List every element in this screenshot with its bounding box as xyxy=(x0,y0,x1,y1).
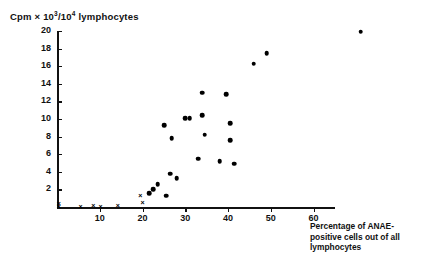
x-axis-tick xyxy=(228,207,229,212)
y-axis-tick-label: 4 xyxy=(0,166,51,176)
data-point-cross xyxy=(90,203,96,209)
y-axis-tick xyxy=(57,172,62,173)
y-axis-tick xyxy=(57,101,62,102)
data-point xyxy=(169,136,174,141)
y-axis-tick xyxy=(57,31,62,32)
y-axis-tick-label: 20 xyxy=(0,25,51,35)
y-axis-title-prefix: Cpm × 10 xyxy=(10,11,54,22)
data-point-cross xyxy=(78,204,84,210)
data-point xyxy=(217,159,222,164)
y-axis-tick xyxy=(57,49,62,50)
y-axis-tick xyxy=(57,84,62,85)
data-point xyxy=(228,138,233,143)
data-point xyxy=(151,187,156,192)
x-axis-tick-label: 30 xyxy=(165,213,205,223)
scatter-chart-figure: Cpm × 103/104 lymphocytes 24681012141618… xyxy=(0,0,426,264)
x-axis-title-line-3: lymphocytes xyxy=(310,242,426,253)
y-axis-tick xyxy=(57,189,62,190)
x-axis-tick xyxy=(271,207,272,212)
data-point-cross xyxy=(137,193,143,199)
x-axis-title-line-2: positive cells out of all xyxy=(310,232,426,243)
data-point-cross xyxy=(98,204,104,210)
data-point xyxy=(251,61,256,66)
data-point xyxy=(187,116,192,121)
y-axis-tick xyxy=(57,137,62,138)
y-axis-tick-label: 2 xyxy=(0,183,51,193)
y-axis-tick-label: 10 xyxy=(0,113,51,123)
data-point xyxy=(232,162,237,167)
y-axis-title-mid: /10 xyxy=(58,11,72,22)
y-axis-tick xyxy=(57,66,62,67)
data-point xyxy=(200,113,205,118)
y-axis-tick-label: 6 xyxy=(0,148,51,158)
data-point xyxy=(174,176,179,181)
data-point-cross xyxy=(115,203,121,209)
data-point xyxy=(264,51,269,56)
data-point xyxy=(358,30,363,35)
data-point xyxy=(224,92,229,97)
data-point xyxy=(168,171,173,176)
data-point-cross xyxy=(140,200,146,206)
y-axis-tick-label: 14 xyxy=(0,78,51,88)
x-axis-tick-label: 10 xyxy=(80,213,120,223)
x-axis-title-line-1: Percentage of ANAE- xyxy=(310,221,426,232)
data-point xyxy=(196,156,201,161)
data-point xyxy=(164,193,169,198)
data-point xyxy=(155,182,160,187)
y-axis-title: Cpm × 103/104 lymphocytes xyxy=(10,10,139,22)
data-point xyxy=(202,133,207,138)
x-axis-tick-label: 40 xyxy=(208,213,248,223)
data-point xyxy=(162,123,167,128)
y-axis-tick xyxy=(57,119,62,120)
x-axis-tick-label: 50 xyxy=(251,213,291,223)
x-axis-title: Percentage of ANAE- positive cells out o… xyxy=(310,221,426,253)
y-axis-tick-label: 8 xyxy=(0,131,51,141)
data-point-cross xyxy=(56,204,62,210)
y-axis-tick-label: 12 xyxy=(0,95,51,105)
x-axis-tick xyxy=(314,207,315,212)
data-point xyxy=(200,90,205,95)
y-axis-tick-label: 16 xyxy=(0,60,51,70)
x-axis-tick-label: 20 xyxy=(123,213,163,223)
data-point xyxy=(228,121,233,126)
y-axis-title-suffix: lymphocytes xyxy=(76,11,139,22)
y-axis-tick xyxy=(57,154,62,155)
x-axis-tick xyxy=(143,207,144,212)
y-axis-tick-label: 18 xyxy=(0,43,51,53)
x-axis-tick xyxy=(185,207,186,212)
